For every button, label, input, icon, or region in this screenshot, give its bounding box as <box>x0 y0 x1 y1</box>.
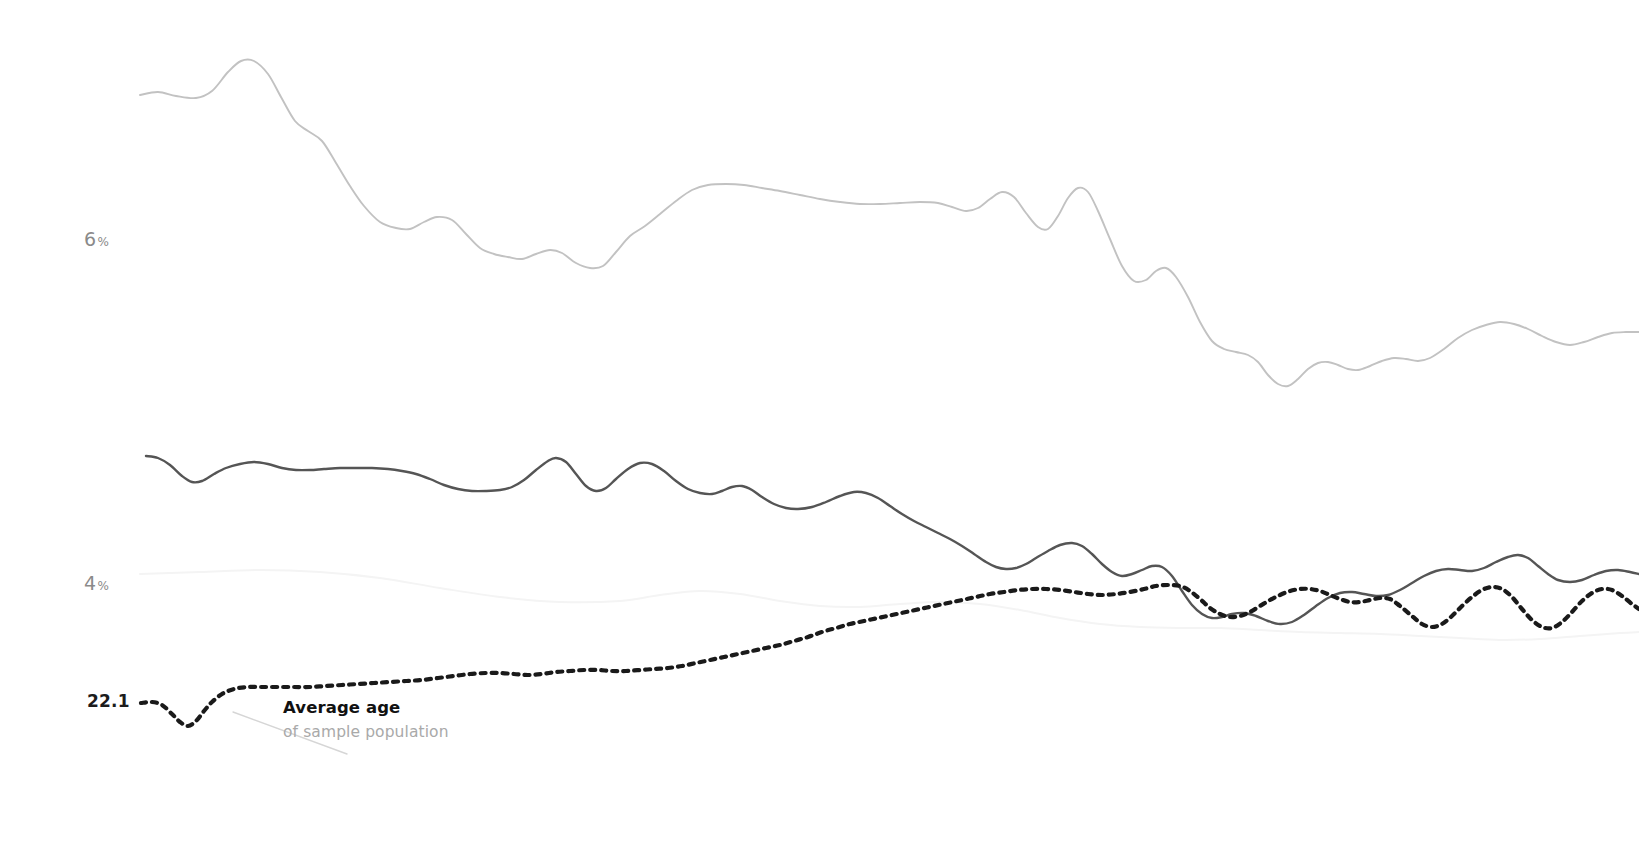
light-gray-series-line <box>140 59 1639 386</box>
y-axis-tick-4-unit: % <box>97 579 108 593</box>
y-axis-tick-6-unit: % <box>97 235 108 249</box>
series-group <box>140 59 1639 726</box>
chart-canvas: 6% 4% 22.1 Average age of sample populat… <box>0 0 1639 850</box>
y-axis-tick-6-value: 6 <box>84 228 96 250</box>
dark-gray-series-line <box>146 456 1639 624</box>
y-axis-tick-4-value: 4 <box>84 572 96 594</box>
legend-callout: Average age of sample population <box>283 700 603 740</box>
start-value-label: 22.1 <box>87 691 130 711</box>
y-axis-tick-4-percent: 4% <box>84 572 109 594</box>
legend-title: Average age <box>283 700 603 717</box>
legend-subtitle: of sample population <box>283 725 603 741</box>
line-chart-svg <box>0 0 1639 850</box>
y-axis-tick-6-percent: 6% <box>84 228 109 250</box>
